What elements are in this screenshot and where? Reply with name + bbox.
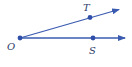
- label-s: S: [89, 45, 96, 56]
- point-t: [88, 15, 93, 20]
- point-s: [91, 36, 96, 41]
- label-o: O: [7, 41, 15, 52]
- label-t: T: [83, 2, 91, 13]
- angle-diagram: O T S: [0, 0, 132, 67]
- ray-ot: [20, 10, 119, 39]
- vertex-point-o: [18, 36, 23, 41]
